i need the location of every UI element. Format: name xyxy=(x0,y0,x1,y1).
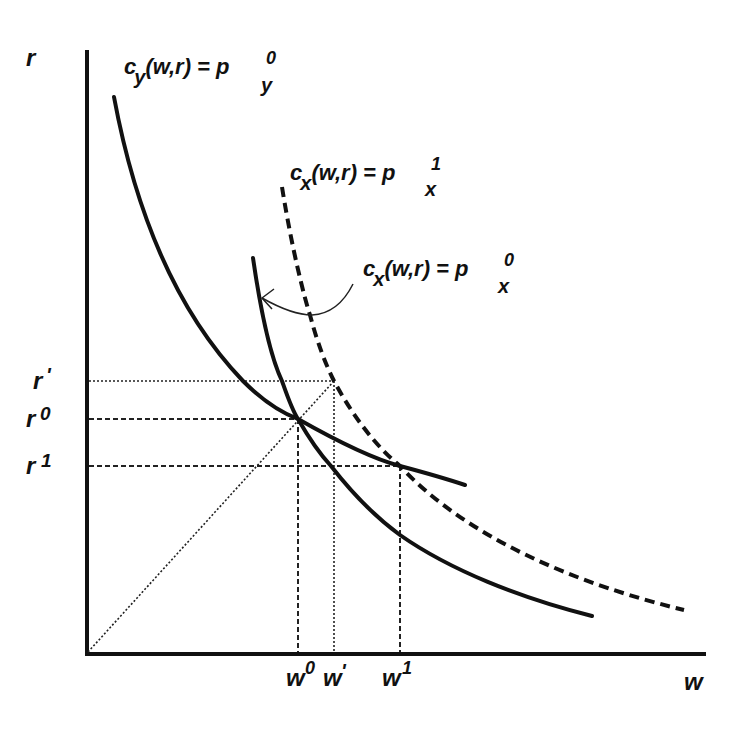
y-axis-label: r xyxy=(26,44,37,71)
svg-text:': ' xyxy=(341,660,347,682)
svg-text:r: r xyxy=(26,405,37,432)
factor-price-diagram: r w cy(w,r) = p 0 y cx(w,r) = p 1 x cx(w… xyxy=(0,0,744,729)
svg-text:cy(w,r) = p: cy(w,r) = p xyxy=(124,54,230,88)
svg-text:1: 1 xyxy=(431,154,441,174)
y-tick-r0: r 0 xyxy=(26,403,51,432)
svg-text:cx(w,r) = p: cx(w,r) = p xyxy=(363,256,469,290)
svg-text:r: r xyxy=(26,452,37,479)
svg-text:1: 1 xyxy=(41,450,52,471)
svg-text:r: r xyxy=(33,367,44,394)
cx0-label: cx(w,r) = p 0 x xyxy=(363,250,514,297)
svg-text:0: 0 xyxy=(40,403,51,424)
svg-text:1: 1 xyxy=(402,658,412,678)
y-tick-r1: r 1 xyxy=(26,450,52,479)
x-tick-w0: w 0 xyxy=(286,658,315,691)
cx1-label: cx(w,r) = p 1 x xyxy=(290,154,441,200)
cy-isocost-curve xyxy=(114,97,465,485)
y-tick-r-prime: r ' xyxy=(33,364,52,394)
svg-text:y: y xyxy=(260,74,273,96)
x-axis-label: w xyxy=(684,668,704,695)
svg-text:w: w xyxy=(286,664,306,691)
arrowhead-icon xyxy=(262,289,274,309)
svg-text:': ' xyxy=(46,364,52,386)
svg-text:w: w xyxy=(382,664,402,691)
cx1-isocost-curve xyxy=(282,187,684,610)
svg-text:0: 0 xyxy=(504,250,514,270)
svg-text:0: 0 xyxy=(305,658,315,678)
cy-label: cy(w,r) = p 0 y xyxy=(124,48,276,96)
svg-text:w: w xyxy=(323,664,343,691)
svg-text:0: 0 xyxy=(266,48,276,68)
svg-text:x: x xyxy=(497,275,510,297)
svg-text:cx(w,r) = p: cx(w,r) = p xyxy=(290,160,396,194)
x-tick-w-prime: w ' xyxy=(323,660,347,691)
x-tick-w1: w 1 xyxy=(382,658,412,691)
svg-text:x: x xyxy=(424,178,437,200)
